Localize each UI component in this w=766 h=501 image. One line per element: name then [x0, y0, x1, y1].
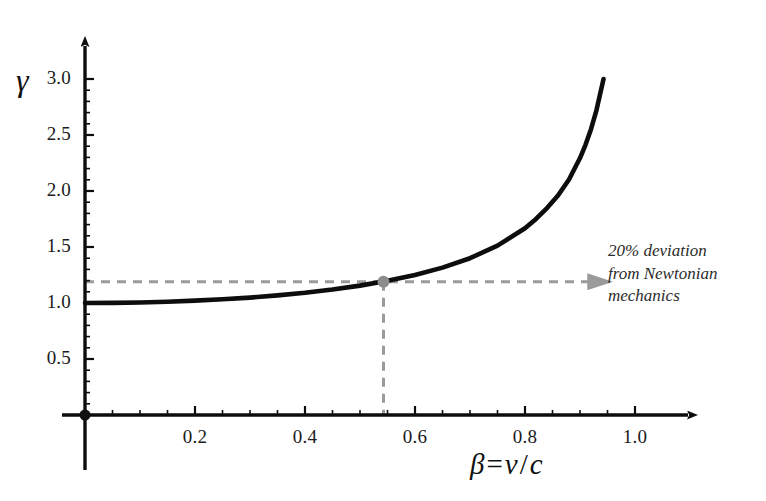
- annotation-line-3: mechanics: [608, 285, 760, 308]
- x-axis-title-slash: /: [518, 448, 530, 480]
- x-axis-title-c: c: [530, 448, 543, 480]
- y-tick-label: 0.5: [13, 347, 71, 369]
- x-tick-label: 0.6: [385, 426, 445, 448]
- y-tick-label: 3.0: [13, 67, 71, 89]
- y-tick-label: 2.5: [13, 123, 71, 145]
- y-tick-label: 1.0: [13, 291, 71, 313]
- x-tick-label: 0.4: [275, 426, 335, 448]
- x-axis-title-equals: =: [484, 448, 504, 480]
- lorentz-factor-figure: γ β=v/c 20% deviation from Newtonian mec…: [0, 0, 766, 501]
- x-axis-title: β=v/c: [470, 448, 543, 481]
- y-tick-label: 2.0: [13, 179, 71, 201]
- x-tick-label: 0.2: [165, 426, 225, 448]
- x-tick-label: 1.0: [605, 426, 665, 448]
- annotation-line-1: 20% deviation: [608, 240, 760, 263]
- x-tick-label: 0.8: [495, 426, 555, 448]
- lorentz-gamma-curve: [85, 79, 604, 303]
- origin-point-marker: [80, 410, 91, 421]
- x-axis-title-v: v: [505, 448, 518, 480]
- x-axis-title-beta: β: [470, 448, 484, 480]
- deviation-point-marker: [377, 276, 389, 288]
- y-tick-label: 1.5: [13, 235, 71, 257]
- deviation-annotation: 20% deviation from Newtonian mechanics: [608, 240, 760, 308]
- annotation-line-2: from Newtonian: [608, 263, 760, 286]
- axes-group: [62, 46, 688, 470]
